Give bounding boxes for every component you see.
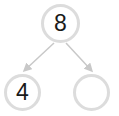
whole-circle: 8 — [41, 4, 80, 43]
part-circle-left: 4 — [4, 74, 41, 111]
arrow-right — [66, 43, 91, 70]
arrow-left — [25, 43, 54, 70]
part-value-left: 4 — [16, 81, 29, 104]
whole-value: 8 — [54, 12, 67, 35]
part-circle-right[interactable] — [73, 74, 110, 111]
